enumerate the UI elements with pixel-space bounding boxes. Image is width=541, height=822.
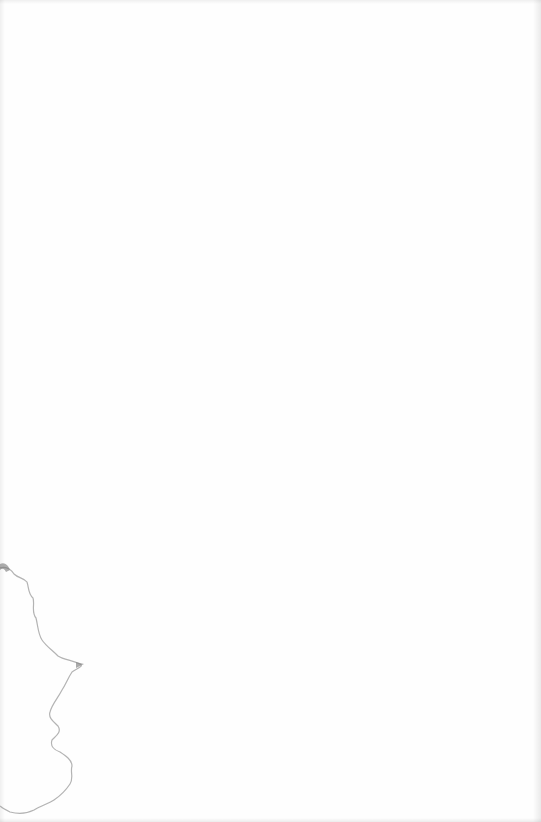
blank-scanned-page — [0, 0, 541, 822]
page-edge-top-shadow — [0, 0, 541, 4]
page-edge-right-shadow — [533, 0, 541, 822]
paper-tear-mark — [0, 560, 100, 822]
